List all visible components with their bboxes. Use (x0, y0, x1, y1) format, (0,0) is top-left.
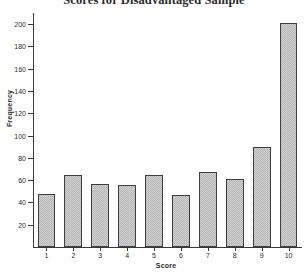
plot-area: 20406080100120140160180200 (33, 13, 302, 247)
y-axis-tick (28, 225, 33, 226)
x-axis-tick-label: 1 (44, 252, 48, 259)
y-axis-tick (28, 91, 33, 92)
x-axis-tick-label: 5 (152, 252, 156, 259)
x-axis-tick (262, 248, 263, 251)
x-axis-tick (181, 248, 182, 251)
y-axis-tick (28, 202, 33, 203)
x-axis-tick-label: 8 (233, 252, 237, 259)
chart-title: Scores for Disadvantaged Sample (0, 0, 308, 8)
y-axis-tick-label: 100 (14, 132, 26, 139)
x-axis-tick (73, 248, 74, 251)
bar (145, 175, 163, 247)
bar (199, 172, 217, 247)
y-axis-tick (28, 46, 33, 47)
histogram-figure: Scores for Disadvantaged Sample Frequenc… (0, 0, 308, 274)
y-axis-tick (28, 180, 33, 181)
y-axis-tick (28, 24, 33, 25)
x-axis-tick-label: 6 (179, 252, 183, 259)
y-axis-tick-label: 140 (14, 88, 26, 95)
bar (91, 184, 109, 248)
y-axis-tick (28, 158, 33, 159)
bar (64, 175, 82, 247)
y-axis-tick-label: 80 (18, 154, 26, 161)
bar (38, 194, 56, 247)
bar (253, 147, 271, 247)
y-axis-tick-label: 200 (14, 21, 26, 28)
x-axis-tick-label: 2 (71, 252, 75, 259)
bar (118, 185, 136, 247)
y-axis-tick-label: 120 (14, 110, 26, 117)
y-axis-tick-label: 40 (18, 199, 26, 206)
bar (172, 195, 190, 247)
x-axis-tick-label: 9 (260, 252, 264, 259)
y-axis-tick-label: 180 (14, 43, 26, 50)
x-axis-tick (127, 248, 128, 251)
x-axis-label: Score (30, 262, 302, 269)
y-axis-tick (28, 69, 33, 70)
x-axis-tick (208, 248, 209, 251)
x-axis-tick (289, 248, 290, 251)
x-axis-tick-label: 4 (125, 252, 129, 259)
x-axis-tick (235, 248, 236, 251)
y-axis-label: Frequency (6, 79, 13, 139)
x-axis-tick (46, 248, 47, 251)
y-axis-tick-label: 60 (18, 177, 26, 184)
x-axis-tick (154, 248, 155, 251)
y-axis-tick (28, 136, 33, 137)
y-axis-tick-label: 160 (14, 65, 26, 72)
y-axis-tick-label: 20 (18, 221, 26, 228)
y-axis-tick (28, 113, 33, 114)
x-axis-tick-label: 7 (206, 252, 210, 259)
x-axis-tick-label: 10 (285, 252, 293, 259)
bar (226, 179, 244, 247)
x-axis-tick-label: 3 (98, 252, 102, 259)
bar (280, 23, 298, 247)
x-axis-tick (100, 248, 101, 251)
